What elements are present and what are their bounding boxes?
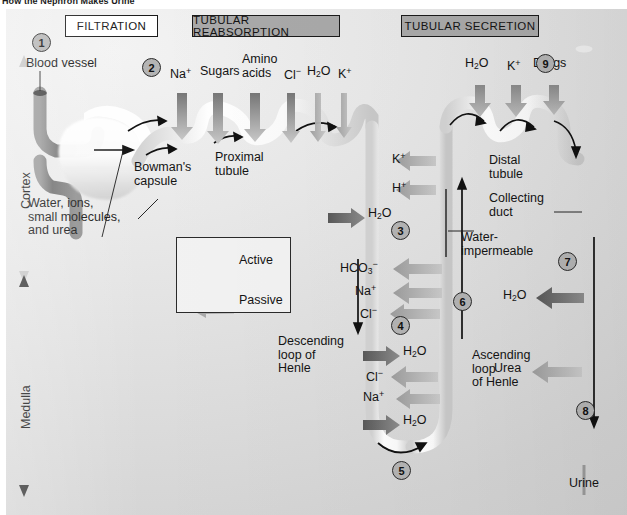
label-water-impermeable: Water- impermeable [461,231,533,258]
step-marker-8: 8 [576,401,595,420]
label-blood-vessel: Blood vessel [26,57,97,71]
solute-label-sugars-proximal: Sugars [200,65,240,79]
solute-label-h2o-proximal: H2O [307,65,331,82]
solute-label-h-upper-loop: H+ [392,179,406,196]
solute-label-na-loop: Na+ [363,388,384,405]
step-marker-9: 9 [536,54,555,73]
label-bowmans-capsule: Bowman's capsule [134,161,191,188]
step-marker-2: 2 [142,58,161,77]
nephron-artwork [6,9,627,515]
step-marker-7: 7 [558,252,577,271]
solute-label-hco3: HCO3− [340,258,377,279]
header-tubular-reabsorption: TUBULAR REABSORPTION [192,15,340,37]
legend-label-active: Active [239,253,273,267]
solute-label-k-proximal: K+ [338,65,352,82]
cortex-axis [19,55,29,283]
header-tubular-secretion: TUBULAR SECRETION [401,15,539,37]
solute-label-cl-loop: Cl− [366,367,382,385]
solute-label-na-ascending: Na+ [355,282,376,299]
header-filtration: FILTRATION [65,15,158,37]
solute-label-h2o-distal: H2O [465,57,489,74]
diagram-panel: FILTRATION TUBULAR REABSORPTION TUBULAR … [6,9,627,515]
solute-label-h2o-descending-1: H2O [403,345,427,362]
step-marker-5: 5 [392,461,411,480]
step-marker-1: 1 [32,33,51,52]
solute-label-k-upper-loop: K+ [392,150,406,167]
nephron-diagram-screenshot: How the Nephron Makes Urine [0,0,627,515]
solute-label-cl-ascending: Cl− [360,304,376,322]
label-urine: Urine [569,477,599,491]
legend-label-passive: Passive [239,293,283,307]
label-proximal-tubule: Proximal tubule [215,151,264,178]
solute-label-k-distal: K+ [507,57,521,74]
solute-label-urea: Urea [494,362,521,376]
axis-label-medulla: Medulla [20,385,34,429]
leader-bowman [138,199,158,219]
step-marker-6: 6 [453,292,472,311]
step-marker-4: 4 [391,316,410,335]
solute-label-h2o-collecting-duct: H2O [503,289,527,306]
label-filtrate-contents: Water, ions, small molecules, and urea [28,197,120,238]
step-marker-3: 3 [391,221,410,240]
label-collecting-duct: Collecting duct [489,192,544,219]
label-descending-loop: Descending loop of Henle [278,335,344,376]
solute-label-na-proximal: Na+ [170,65,191,82]
ascending-loop-upper-arrows [390,258,442,324]
solute-label-amino-acids-proximal: Aminoacids [242,53,277,80]
solute-label-h2o-upper-loop: H2O [368,207,392,224]
page-title: How the Nephron Makes Urine [2,0,135,6]
label-distal-tubule: Distal tubule [489,154,523,181]
solute-label-cl-proximal: Cl− [284,65,300,83]
solute-label-h2o-descending-2: H2O [403,414,427,431]
